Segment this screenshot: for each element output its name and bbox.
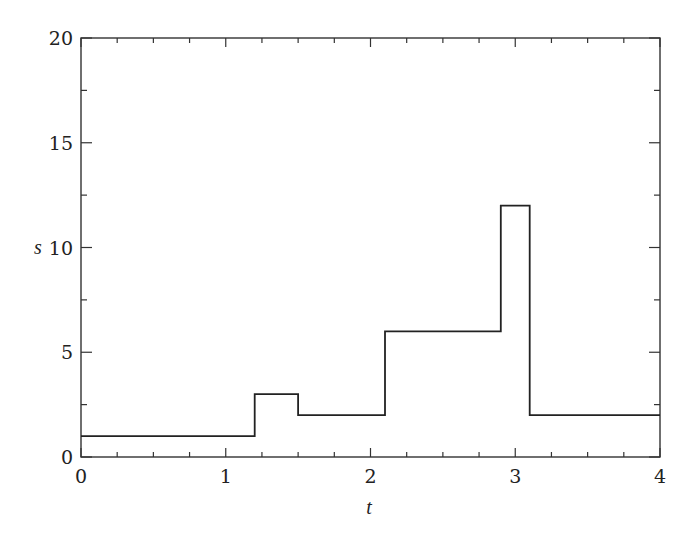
x-axis-label: t [366,496,372,518]
x-tick-label: 3 [509,465,521,487]
tick-labels: 0123405101520 [49,27,666,487]
step-series-line [81,206,660,437]
x-tick-label: 1 [220,465,232,487]
x-tick-label: 0 [75,465,87,487]
step-chart: 0123405101520 t s [0,0,691,545]
y-tick-label: 10 [49,237,73,259]
plot-frame [81,38,660,457]
y-tick-label: 20 [49,27,73,49]
axis-ticks [81,38,660,457]
y-tick-label: 15 [49,132,73,154]
x-tick-label: 4 [654,465,666,487]
y-tick-label: 0 [61,446,73,468]
x-tick-label: 2 [364,465,376,487]
y-axis-label: s [34,236,42,258]
y-tick-label: 5 [61,341,73,363]
